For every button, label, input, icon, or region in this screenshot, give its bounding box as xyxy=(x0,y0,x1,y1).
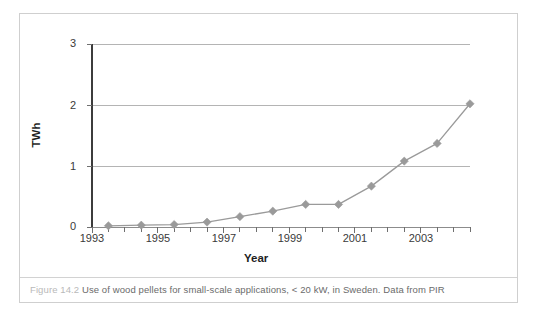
y-tick-label-2: 2 xyxy=(56,99,76,111)
data-point-marker xyxy=(236,213,244,221)
series-line xyxy=(108,104,470,226)
y-tick-label-3: 3 xyxy=(56,37,76,49)
figure-root: 3 2 1 0 1993 1995 1997 1999 2001 2003 TW… xyxy=(0,0,539,316)
y-axis-title: TWh xyxy=(30,115,42,155)
data-point-marker xyxy=(334,200,342,208)
data-point-marker xyxy=(104,222,112,230)
data-point-marker xyxy=(302,200,310,208)
caption-number: Figure 14.2 xyxy=(30,284,79,295)
plot-area: 3 2 1 0 1993 1995 1997 1999 2001 2003 TW… xyxy=(0,0,539,277)
x-tick-label-1999: 1999 xyxy=(268,232,312,244)
y-tick-label-1: 1 xyxy=(56,160,76,172)
x-tick-label-1997: 1997 xyxy=(202,232,246,244)
x-tick-label-1993: 1993 xyxy=(70,232,114,244)
x-tick-label-2001: 2001 xyxy=(333,232,377,244)
caption-text: Use of wood pellets for small-scale appl… xyxy=(82,284,445,295)
caption-divider xyxy=(20,277,517,278)
x-axis-title: Year xyxy=(244,252,268,264)
figure-caption: Figure 14.2 Use of wood pellets for smal… xyxy=(30,283,510,299)
data-point-marker xyxy=(269,207,277,215)
data-point-marker xyxy=(137,221,145,229)
data-point-marker xyxy=(203,218,211,226)
y-tick-label-0: 0 xyxy=(56,220,76,232)
x-tick-label-2003: 2003 xyxy=(399,232,443,244)
x-tick-label-1995: 1995 xyxy=(136,232,180,244)
